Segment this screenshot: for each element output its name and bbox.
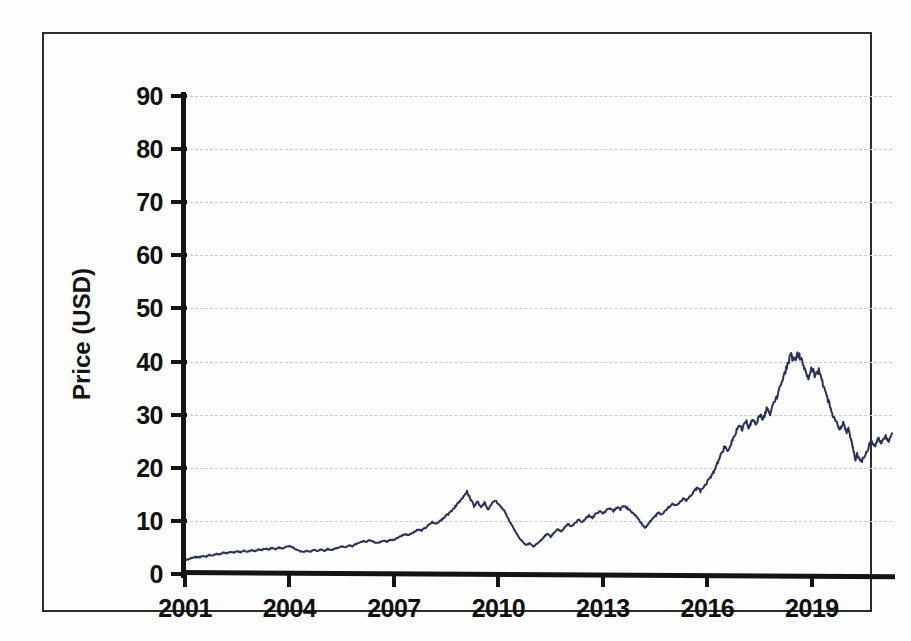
x-tick-label: 2013	[560, 594, 646, 623]
x-tick-label: 2007	[351, 594, 437, 623]
x-axis-ticks: 2001200420072010201320162019	[44, 34, 870, 610]
x-tick-mark	[705, 574, 709, 587]
x-tick-label: 2004	[246, 594, 332, 623]
x-tick-mark	[287, 574, 291, 587]
x-tick-label: 2019	[769, 594, 855, 623]
x-tick-label: 2016	[664, 594, 750, 623]
x-tick-mark	[392, 574, 396, 587]
chart-figure: Price (USD) 0102030405060708090 20012004…	[0, 0, 911, 641]
x-tick-mark	[183, 574, 187, 587]
x-tick-mark	[496, 574, 500, 587]
x-tick-mark	[601, 574, 605, 587]
x-tick-label: 2010	[455, 594, 541, 623]
x-tick-label: 2001	[142, 594, 228, 623]
figure-frame: Price (USD) 0102030405060708090 20012004…	[42, 32, 872, 612]
x-tick-mark	[810, 574, 814, 587]
